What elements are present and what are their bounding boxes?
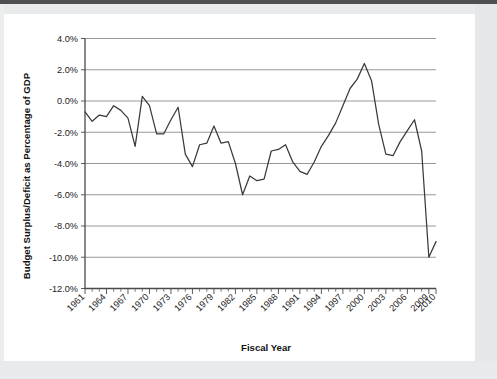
y-axis-tick-labels: 4.0%2.0%0.0%-2.0%-4.0%-6.0%-8.0%-10.0%-1… (49, 34, 78, 294)
y-axis-tick-label: -6.0% (54, 190, 78, 200)
y-axis-title: Budget Surplus/Deficit as Percentage of … (21, 72, 32, 279)
y-axis-tick-label: 2.0% (57, 65, 78, 75)
y-axis-tick-label: 0.0% (57, 96, 78, 106)
data-series-group (85, 64, 436, 258)
y-axis-tick-label: -8.0% (54, 221, 78, 231)
x-axis-tick-label: 1979 (194, 292, 216, 314)
x-axis-tick-label: 1970 (129, 292, 151, 314)
x-axis-tick-label: 2000 (344, 292, 366, 314)
gridlines-group (85, 39, 436, 258)
line-chart: 4.0%2.0%0.0%-2.0%-4.0%-6.0%-8.0%-10.0%-1… (4, 14, 475, 361)
y-axis-tick-label: -4.0% (54, 159, 78, 169)
chart-canvas: 4.0%2.0%0.0%-2.0%-4.0%-6.0%-8.0%-10.0%-1… (4, 14, 475, 361)
x-axis-tick-label: 2003 (366, 292, 388, 314)
x-axis-tick-label: 1961 (65, 292, 87, 314)
x-axis-title: Fiscal Year (241, 342, 291, 353)
x-axis-tick-label: 1988 (258, 292, 280, 314)
x-axis-tick-label: 1976 (172, 292, 194, 314)
page-right-shade (475, 4, 497, 379)
x-axis-tick-label: 1994 (301, 292, 323, 314)
data-series-line (85, 64, 436, 258)
y-axis-tick-label: -12.0% (49, 284, 78, 294)
x-axis-tick-labels: 1961196419671970197319761979198219851988… (65, 292, 438, 314)
page-top-shade (0, 4, 497, 14)
x-axis-tick-label: 1985 (237, 292, 259, 314)
x-axis (85, 289, 436, 295)
x-axis-tick-label: 1967 (108, 292, 130, 314)
y-axis-tick-label: -10.0% (49, 253, 78, 263)
figure-container: 4.0%2.0%0.0%-2.0%-4.0%-6.0%-8.0%-10.0%-1… (4, 14, 475, 361)
x-axis-tick-label: 1982 (215, 292, 237, 314)
x-axis-tick-label: 1973 (151, 292, 173, 314)
x-axis-tick-label: 1997 (323, 292, 345, 314)
x-axis-tick-label: 1991 (280, 292, 302, 314)
x-axis-tick-label: 2006 (387, 292, 409, 314)
y-axis-tick-label: -2.0% (54, 128, 78, 138)
screenshot-page: 4.0%2.0%0.0%-2.0%-4.0%-6.0%-8.0%-10.0%-1… (0, 0, 497, 379)
y-axis (81, 39, 85, 289)
page-bottom-shade (0, 361, 497, 379)
y-axis-tick-label: 4.0% (57, 34, 78, 44)
x-axis-tick-label: 1964 (86, 292, 108, 314)
